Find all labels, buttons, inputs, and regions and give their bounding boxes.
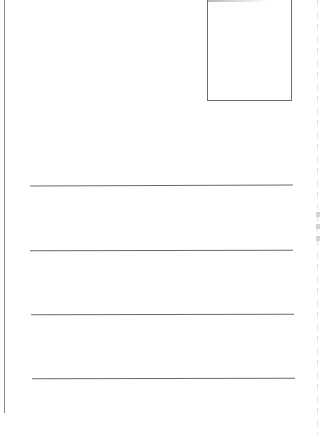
edge-mark	[316, 236, 320, 241]
address-line	[30, 250, 293, 252]
edge-mark	[316, 224, 320, 229]
stamp-box	[207, 0, 292, 101]
address-line	[30, 185, 293, 187]
message-address-divider	[4, 0, 5, 413]
edge-mark	[316, 212, 320, 217]
stamp-box-shade	[208, 0, 268, 2]
perforation-edge	[317, 0, 318, 434]
address-line	[32, 378, 295, 380]
postcard-back	[0, 0, 323, 434]
address-line	[31, 314, 294, 316]
